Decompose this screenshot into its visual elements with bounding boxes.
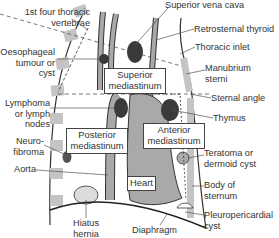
label-diaphragm: Diaphragm xyxy=(132,225,177,236)
superior-label-2: mediastinum xyxy=(107,81,163,92)
label-lymphoma: Lymphomaor lymphnodes xyxy=(0,98,50,130)
label-pleuropericardial: Pleuropericardialcyst xyxy=(204,210,273,231)
label-thymus: Thymus xyxy=(213,113,246,124)
label-manubrium: Manubriumsterni xyxy=(205,63,251,84)
label-oesophageal: Oesophagealtumour orcyst xyxy=(0,47,55,79)
anterior-label-2: mediastinum xyxy=(146,136,202,147)
heart-box: Heart xyxy=(127,176,156,191)
label-vertebrae: 1st four thoracicvertebrae xyxy=(2,7,90,28)
manubrium xyxy=(180,58,193,93)
label-svc: Superior vena cava xyxy=(165,0,244,11)
superior-mediastinum-box: Superior mediastinum xyxy=(104,68,166,94)
posterior-mediastinum-box: Posterior mediastinum xyxy=(66,128,128,154)
label-sternal-angle: Sternal angle xyxy=(211,93,265,104)
posterior-label-2: mediastinum xyxy=(69,141,125,152)
label-thyroid: Retrosternal thyroid xyxy=(194,24,274,35)
label-hiatus: Hiatushernia xyxy=(73,218,99,238)
label-teratoma: Teratoma ordermoid cyst xyxy=(204,148,256,169)
heart-label: Heart xyxy=(130,178,153,189)
label-inlet: Thoracic inlet xyxy=(195,42,250,53)
anterior-mediastinum-box: Anterior mediastinum xyxy=(143,123,205,149)
label-body-sternum: Body ofsternum xyxy=(204,180,237,201)
label-aorta: Aorta xyxy=(0,164,36,175)
label-neurofibroma: Neuro-fibroma xyxy=(0,136,44,157)
